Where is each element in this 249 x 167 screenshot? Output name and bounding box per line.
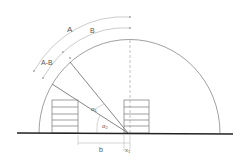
dimension-arc-b: [43, 28, 130, 78]
left-building: [52, 100, 78, 133]
diagram-canvas: A B A-B α1 α2 b x1: [0, 0, 249, 167]
ground-line: [17, 133, 233, 134]
right-building: [124, 100, 149, 133]
label-x1-dimension: x1: [125, 147, 131, 154]
label-b-dimension: b: [99, 146, 103, 153]
label-b: B: [90, 27, 95, 34]
label-a-minus-b: A-B: [41, 59, 53, 66]
main-arc: [39, 39, 220, 133]
label-a: A: [67, 25, 73, 34]
label-alpha-1: α1: [91, 106, 97, 113]
label-alpha-2: α2: [102, 123, 108, 130]
angle-arc-2: [97, 115, 100, 133]
sight-line-upper: [70, 62, 128, 133]
